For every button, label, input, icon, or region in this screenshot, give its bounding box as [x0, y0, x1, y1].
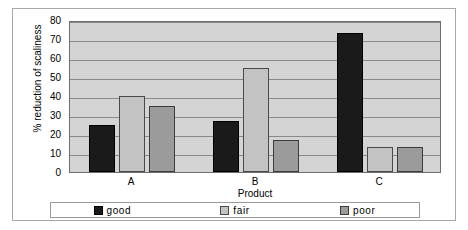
- y-axis-tick-label: 30: [35, 111, 61, 121]
- bar-c-fair: [367, 147, 393, 172]
- chart-legend: goodfairpoor: [50, 202, 420, 218]
- x-axis-category-label: A: [111, 176, 151, 187]
- legend-swatch-icon: [340, 206, 349, 215]
- legend-item-poor[interactable]: poor: [296, 205, 419, 216]
- plot-area: [69, 21, 441, 173]
- legend-swatch-icon: [220, 206, 229, 215]
- y-axis-tick-label: 0: [35, 168, 61, 178]
- bar-a-good: [89, 125, 115, 173]
- x-axis-title: Product: [69, 188, 441, 199]
- y-axis-tick-label: 80: [35, 16, 61, 26]
- legend-item-label: good: [107, 205, 132, 216]
- bar-a-fair: [119, 96, 145, 172]
- legend-item-fair[interactable]: fair: [174, 205, 297, 216]
- legend-swatch-icon: [94, 206, 103, 215]
- bar-b-poor: [273, 140, 299, 172]
- bars-layer: [70, 22, 440, 172]
- y-axis-tick-label: 60: [35, 54, 61, 64]
- chart-frame: % reduction of scaliness 807060504030201…: [12, 8, 456, 221]
- y-axis-tick-label: 20: [35, 130, 61, 140]
- legend-item-good[interactable]: good: [51, 205, 174, 216]
- x-axis-category-label: B: [235, 176, 275, 187]
- bar-c-good: [337, 33, 363, 172]
- bar-b-fair: [243, 68, 269, 173]
- legend-item-label: fair: [233, 205, 249, 216]
- bar-b-good: [213, 121, 239, 172]
- bar-a-poor: [149, 106, 175, 173]
- y-axis-tick-label: 40: [35, 92, 61, 102]
- x-axis-category-label: C: [359, 176, 399, 187]
- y-axis-tick-label: 50: [35, 73, 61, 83]
- y-axis-tick-labels: 80706050403020100: [35, 21, 61, 173]
- y-axis-tick-label: 70: [35, 35, 61, 45]
- bar-c-poor: [397, 147, 423, 172]
- y-axis-tick-label: 10: [35, 149, 61, 159]
- legend-item-label: poor: [353, 205, 375, 216]
